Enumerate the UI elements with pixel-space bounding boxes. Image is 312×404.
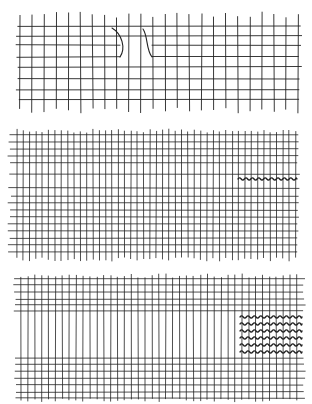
warp-thread xyxy=(159,274,160,401)
warp-thread xyxy=(62,276,63,399)
weft-thread xyxy=(18,67,301,68)
warp-thread xyxy=(207,274,208,399)
warp-thread xyxy=(76,275,77,400)
warp-thread xyxy=(166,274,167,399)
warp-thread xyxy=(201,14,202,110)
warp-thread xyxy=(138,278,139,399)
weft-thread xyxy=(16,392,303,393)
weft-thread xyxy=(17,36,302,37)
warp-thread xyxy=(221,278,222,399)
warp-thread xyxy=(104,276,105,401)
weft-thread xyxy=(17,57,120,58)
warp-thread xyxy=(274,14,275,111)
warp-thread xyxy=(213,131,214,258)
warp-thread xyxy=(264,131,265,258)
diagram-canvas: Three hand-drawn woven fabric grids illu… xyxy=(0,0,312,404)
warp-thread xyxy=(276,277,277,398)
panel-tear xyxy=(16,12,302,113)
warp-thread xyxy=(283,130,284,258)
warp-thread xyxy=(80,12,81,113)
weft-thread xyxy=(10,238,297,239)
panel-single-wave xyxy=(8,129,299,261)
tear-right-edge xyxy=(143,29,152,57)
warp-thread xyxy=(156,131,157,257)
tear-left-edge xyxy=(112,28,123,57)
weft-thread xyxy=(16,398,305,399)
warp-thread xyxy=(245,131,246,258)
warp-thread xyxy=(92,15,93,108)
weft-thread xyxy=(10,217,298,218)
warp-thread xyxy=(238,17,239,113)
warp-thread xyxy=(189,15,190,111)
wavy-thread xyxy=(238,178,297,180)
fabric-diagram xyxy=(0,0,312,404)
weft-thread xyxy=(16,385,302,386)
warp-thread xyxy=(131,131,132,259)
panel-multi-wave xyxy=(14,274,306,402)
weft-thread xyxy=(16,45,120,46)
warp-thread xyxy=(193,276,194,401)
weft-thread xyxy=(11,210,298,211)
weft-thread xyxy=(9,188,299,189)
warp-thread xyxy=(298,15,299,113)
